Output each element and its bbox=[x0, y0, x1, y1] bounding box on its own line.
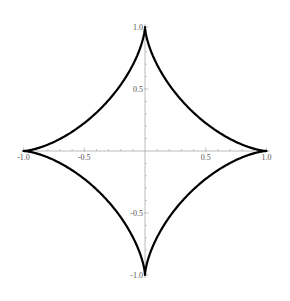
y-tick-label: 0.5 bbox=[133, 85, 143, 94]
y-tick-label: 1.0 bbox=[133, 23, 143, 32]
x-tick-label: -0.5 bbox=[78, 153, 91, 162]
astroid-chart: -1.0-0.50.51.01.00.5-0.5-1.0 bbox=[0, 0, 290, 301]
tick-labels: -1.0-0.50.51.01.00.5-0.5-1.0 bbox=[17, 23, 271, 280]
x-tick-label: 1.0 bbox=[262, 153, 272, 162]
y-tick-label: -0.5 bbox=[130, 209, 143, 218]
y-tick-label: -1.0 bbox=[130, 271, 143, 280]
x-tick-label: 0.5 bbox=[201, 153, 211, 162]
axes bbox=[22, 24, 270, 278]
x-tick-label: -1.0 bbox=[17, 153, 30, 162]
